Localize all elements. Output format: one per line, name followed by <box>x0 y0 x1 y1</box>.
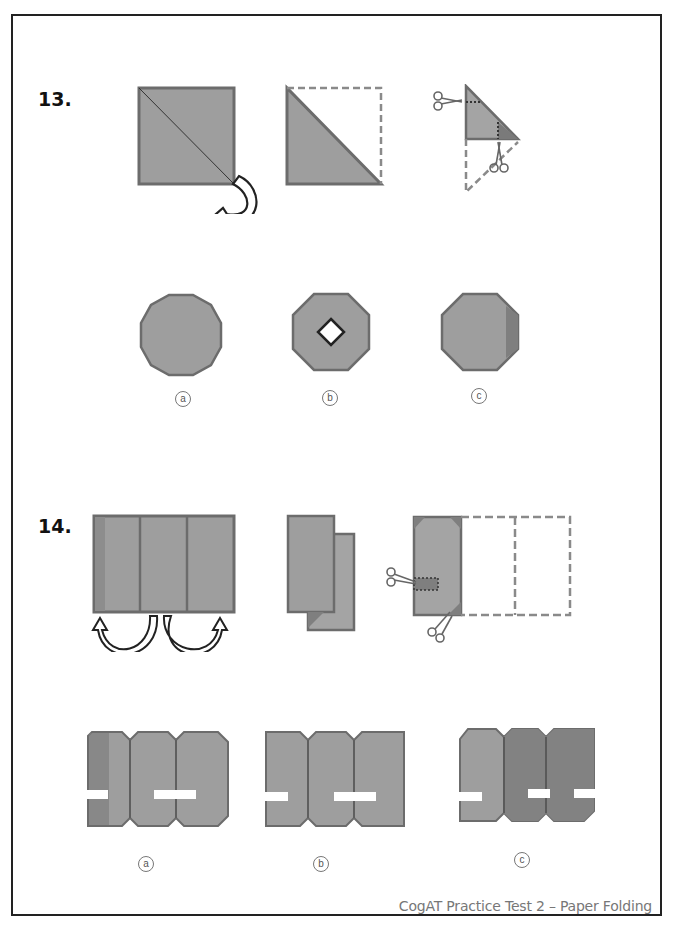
q13-option-c-label[interactable]: c <box>471 388 487 404</box>
q14-step2-accordion-fold <box>284 512 359 636</box>
q13-step3-cut-triangle <box>430 84 530 194</box>
q13-option-c-octagon-shaded[interactable] <box>440 292 522 374</box>
footer-title: CogAT Practice Test 2 – Paper Folding <box>399 898 652 914</box>
q13-option-b-label[interactable]: b <box>322 390 338 406</box>
q14-option-a-panels[interactable] <box>84 728 234 832</box>
q13-step2-folded-triangle <box>283 84 388 189</box>
q13-option-b-octagon-hole[interactable] <box>291 292 373 374</box>
q13-step1-square-diagonal <box>135 84 275 214</box>
scissors-icon <box>387 568 416 586</box>
q14-option-b-panels[interactable] <box>262 728 412 832</box>
q14-step3-cut-panel <box>380 512 580 647</box>
q14-option-a-label[interactable]: a <box>138 856 154 872</box>
scissors-icon <box>434 92 462 110</box>
q14-option-c-panels[interactable] <box>456 725 606 829</box>
q14-step1-three-panel-sheet <box>90 512 240 652</box>
fold-arrows-icon <box>93 616 227 652</box>
q13-option-a-label[interactable]: a <box>175 391 191 407</box>
q14-option-b-label[interactable]: b <box>313 856 329 872</box>
question-14-number: 14. <box>38 515 72 537</box>
q13-option-a-dodecagon[interactable] <box>136 293 226 383</box>
question-13-number: 13. <box>38 88 72 110</box>
q14-option-c-label[interactable]: c <box>514 852 530 868</box>
scissors-icon <box>428 612 452 642</box>
